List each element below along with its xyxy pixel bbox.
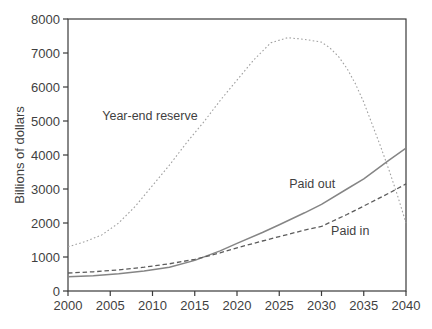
chart-svg: 0100020003000400050006000700080002000200…: [0, 0, 432, 329]
x-tick-label: 2020: [223, 298, 252, 313]
y-tick-label: 8000: [31, 12, 60, 27]
x-tick-label: 2035: [349, 298, 378, 313]
x-tick-label: 2005: [96, 298, 125, 313]
series-line-year-end-reserve: [68, 38, 406, 247]
y-tick-label: 3000: [31, 182, 60, 197]
y-tick-label: 0: [53, 284, 60, 299]
plot-frame: [68, 19, 406, 291]
series-line-paid-out: [68, 148, 406, 277]
x-tick-label: 2030: [307, 298, 336, 313]
y-tick-label: 5000: [31, 114, 60, 129]
series-label-paid-in: Paid in: [331, 224, 369, 238]
x-tick-label: 2040: [392, 298, 421, 313]
x-tick-label: 2025: [265, 298, 294, 313]
series-label-year-end-reserve: Year-end reserve: [102, 109, 197, 123]
y-tick-label: 1000: [31, 250, 60, 265]
y-axis-title: Billions of dollars: [12, 106, 27, 204]
x-tick-label: 2010: [138, 298, 167, 313]
x-tick-label: 2000: [54, 298, 83, 313]
x-tick-label: 2015: [180, 298, 209, 313]
y-tick-label: 7000: [31, 46, 60, 61]
y-tick-label: 6000: [31, 80, 60, 95]
y-tick-label: 4000: [31, 148, 60, 163]
chart-figure: 0100020003000400050006000700080002000200…: [0, 0, 432, 329]
y-tick-label: 2000: [31, 216, 60, 231]
series-label-paid-out: Paid out: [289, 177, 335, 191]
